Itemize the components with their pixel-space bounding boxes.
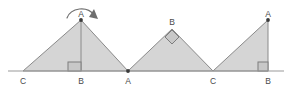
vertex-dot-a-middle — [126, 69, 130, 73]
label-apex-a-left: A — [78, 9, 84, 19]
rotation-arrow-head-icon — [89, 9, 98, 19]
label-apex-a-right: A — [265, 9, 271, 19]
label-b-right: B — [265, 76, 271, 86]
label-a-middle: A — [125, 76, 131, 86]
geometry-figure: A C B B A C A B — [0, 0, 291, 92]
label-b-left: B — [78, 76, 84, 86]
label-c-left: C — [20, 76, 26, 86]
label-c-middle: C — [210, 76, 216, 86]
right-angle-marker-b-right — [258, 62, 268, 71]
label-apex-b-middle: B — [169, 17, 175, 27]
geometry-canvas: A C B B A C A B — [0, 0, 291, 92]
right-angle-marker-b-left — [68, 62, 81, 71]
